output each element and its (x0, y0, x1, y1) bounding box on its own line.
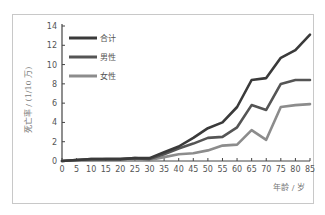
y-tick-label: 6 (52, 99, 57, 108)
x-tick-label: 55 (217, 165, 227, 174)
legend-item: 男性 (69, 52, 116, 62)
y-axis-title: 死亡率 / (1/10 万) (23, 67, 33, 134)
y-tick-label: 0 (52, 157, 57, 166)
x-tick-label: 30 (144, 165, 154, 174)
legend: 合计男性女性 (69, 33, 116, 81)
x-tick-label: 15 (101, 165, 111, 174)
y-tick-label: 2 (52, 138, 57, 147)
series-line (62, 80, 310, 161)
legend-label: 男性 (100, 52, 116, 62)
x-tick-label: 45 (188, 165, 198, 174)
x-tick-label: 10 (86, 165, 96, 174)
x-tick-label: 60 (232, 165, 242, 174)
legend-item: 女性 (69, 71, 116, 81)
y-tick-label: 14 (47, 22, 57, 31)
x-tick-label: 85 (305, 165, 315, 174)
x-tick-label: 50 (203, 165, 213, 174)
x-tick-label: 35 (159, 165, 169, 174)
y-tick-label: 4 (52, 118, 57, 127)
y-tick-label: 10 (47, 61, 57, 70)
x-tick-label: 5 (74, 165, 79, 174)
legend-label: 合计 (100, 33, 116, 43)
line-chart: 02468101214 0510152025303540455055606570… (0, 0, 325, 215)
x-tick-label: 40 (174, 165, 184, 174)
x-tick-label: 70 (261, 165, 271, 174)
x-tick-label: 75 (276, 165, 286, 174)
x-axis-title: 年龄 / 岁 (273, 182, 305, 192)
x-tick-label: 20 (115, 165, 125, 174)
series-line (62, 104, 310, 161)
x-tick-label: 80 (290, 165, 300, 174)
y-tick-label: 8 (52, 80, 57, 89)
y-tick-label: 12 (47, 41, 57, 50)
y-axis: 02468101214 (47, 22, 65, 166)
x-tick-label: 65 (247, 165, 257, 174)
x-tick-label: 25 (130, 165, 140, 174)
legend-label: 女性 (100, 71, 116, 81)
legend-item: 合计 (69, 33, 116, 43)
x-tick-label: 0 (59, 165, 64, 174)
